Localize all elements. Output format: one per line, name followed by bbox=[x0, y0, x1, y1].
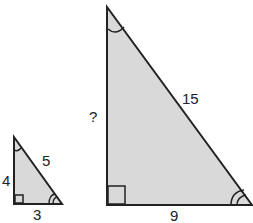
small-triangle: 4 5 3 bbox=[2, 137, 62, 223]
large-triangle: ? 15 9 bbox=[89, 7, 252, 223]
large-hypotenuse-label: 15 bbox=[182, 90, 199, 107]
similar-triangles-diagram: 4 5 3 ? 15 9 bbox=[0, 0, 253, 223]
large-side-horizontal-label: 9 bbox=[170, 207, 178, 223]
small-hypotenuse-label: 5 bbox=[42, 152, 50, 169]
large-side-vertical-label: ? bbox=[89, 108, 97, 125]
small-side-horizontal-label: 3 bbox=[33, 206, 41, 223]
small-side-vertical-label: 4 bbox=[2, 172, 10, 189]
